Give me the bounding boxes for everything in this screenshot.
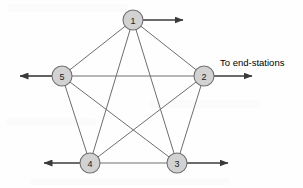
trunk-group [20, 20, 252, 163]
node-1-label: 1 [130, 16, 135, 26]
network-topology-diagram: 1 2 3 4 5 To end-stations [0, 0, 303, 188]
edge-group [62, 20, 204, 163]
edge-3-5 [62, 76, 177, 163]
edge-1-5 [62, 20, 133, 76]
node-2[interactable]: 2 [194, 66, 214, 86]
edge-1-3 [133, 20, 177, 163]
edge-2-3 [177, 76, 204, 163]
topology-canvas: 1 2 3 4 5 [0, 0, 303, 188]
edge-2-4 [90, 76, 204, 163]
node-4-label: 4 [87, 159, 92, 169]
node-1[interactable]: 1 [123, 10, 143, 30]
node-3[interactable]: 3 [167, 153, 187, 173]
edge-1-4 [90, 20, 133, 163]
edge-1-2 [133, 20, 204, 76]
node-2-label: 2 [201, 72, 206, 82]
node-5-label: 5 [59, 72, 64, 82]
end-stations-caption: To end-stations [220, 57, 284, 68]
node-4[interactable]: 4 [80, 153, 100, 173]
edge-4-5 [62, 76, 90, 163]
node-3-label: 3 [174, 159, 179, 169]
node-5[interactable]: 5 [52, 66, 72, 86]
